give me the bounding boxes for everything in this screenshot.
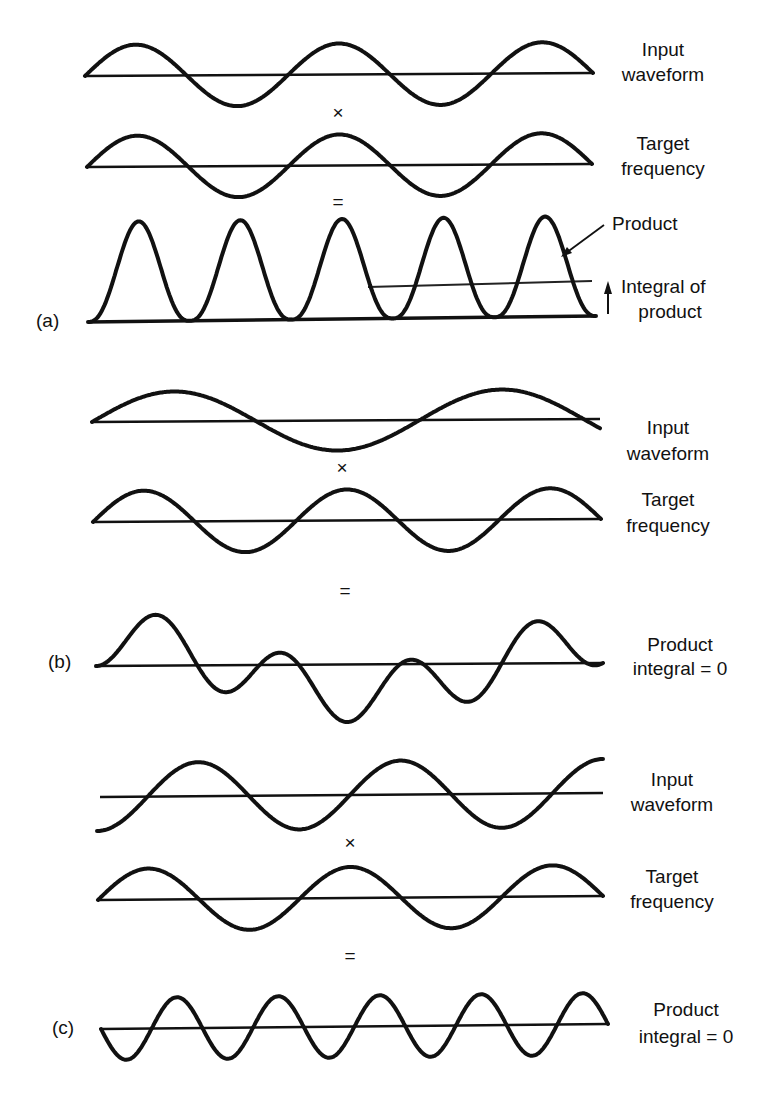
panel-a-input-axis: [85, 73, 593, 76]
panel-c-input-label-line2: waveform: [630, 794, 713, 815]
panel-a-target-label-line2: frequency: [621, 158, 705, 179]
panel-b-multiply-symbol: ×: [336, 457, 347, 478]
panel-b-product-label-line2: integral = 0: [633, 658, 728, 679]
panel-a-input-label-line2: waveform: [621, 64, 704, 85]
panel-c-input-waveform: [97, 759, 603, 831]
panel-b: Input waveform × Target frequency = Prod…: [48, 390, 727, 722]
panel-a-target-label-line1: Target: [637, 133, 691, 154]
panel-a-label: (a): [36, 310, 59, 331]
panel-c-input-label-line1: Input: [651, 769, 694, 790]
panel-b-target-axis: [93, 519, 601, 522]
panel-b-equals-symbol: =: [339, 580, 350, 601]
panel-b-target-label-line2: frequency: [626, 515, 710, 536]
integral-up-arrow-icon: [604, 281, 612, 314]
panel-a-input-label-line1: Input: [642, 39, 685, 60]
panel-b-target-label-line1: Target: [642, 489, 696, 510]
panel-b-product-waveform: [96, 615, 603, 722]
panel-b-input-label-line1: Input: [647, 417, 690, 438]
panel-a-integral-level-line: [368, 281, 592, 287]
panel-a-product-waveform: [88, 217, 596, 322]
panel-a-product-label: Product: [612, 213, 678, 234]
panel-c-multiply-symbol: ×: [344, 832, 355, 853]
panel-a-integral-label-line1: Integral of: [621, 276, 706, 297]
panel-a-product-axis: [88, 316, 596, 322]
panel-b-product-axis: [96, 663, 603, 666]
panel-b-product-label-line1: Product: [647, 634, 713, 655]
panel-a-integral-label-line2: product: [638, 301, 702, 322]
panel-c: Input waveform × Target frequency = Prod…: [52, 759, 733, 1060]
panel-c-target-label-line2: frequency: [630, 891, 714, 912]
correlation-diagram: Input waveform × Target frequency = Prod…: [0, 0, 778, 1093]
panel-b-label: (b): [48, 651, 71, 672]
panel-c-label: (c): [52, 1017, 74, 1038]
panel-c-target-axis: [98, 896, 603, 900]
panel-c-product-waveform: [101, 993, 608, 1060]
panel-a: Input waveform × Target frequency = Prod…: [36, 39, 706, 331]
panel-a-equals-symbol: =: [332, 191, 343, 212]
panel-c-equals-symbol: =: [344, 945, 355, 966]
panel-c-product-label-line1: Product: [653, 999, 719, 1020]
panel-c-product-label-line2: integral = 0: [639, 1026, 734, 1047]
product-pointer-arrow-icon: [561, 225, 604, 257]
panel-c-target-label-line1: Target: [646, 866, 700, 887]
panel-a-multiply-symbol: ×: [332, 102, 343, 123]
panel-b-input-label-line2: waveform: [626, 443, 709, 464]
panel-a-target-axis: [87, 164, 592, 167]
panel-b-input-axis: [92, 419, 600, 422]
